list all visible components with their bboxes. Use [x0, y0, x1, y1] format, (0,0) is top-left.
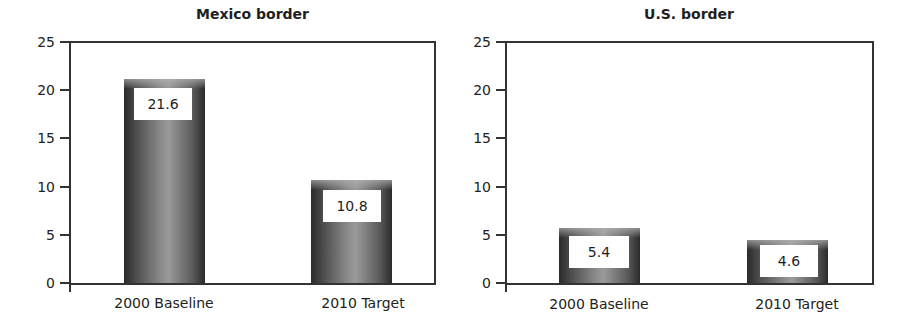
y-tick-label: 20	[25, 83, 55, 97]
bar-value-label: 5.4	[569, 236, 629, 268]
bar-value-label: 21.6	[134, 88, 192, 120]
y-tick-label: 0	[25, 276, 55, 290]
x-axis-origin-tick	[69, 284, 71, 292]
x-category-label: 2000 Baseline	[99, 295, 229, 311]
y-tick-label: 5	[25, 228, 55, 242]
y-tick-label: 5	[461, 228, 491, 242]
chart-us-border: U.S. border 0 5 10 15 20 25 5.4 4.6 2000…	[450, 0, 901, 335]
y-tick-label: 25	[461, 35, 491, 49]
y-tick	[496, 137, 506, 139]
y-tick	[496, 186, 506, 188]
x-category-label: 2010 Target	[298, 295, 428, 311]
y-tick	[60, 186, 70, 188]
y-tick-label: 25	[25, 35, 55, 49]
y-tick-label: 20	[461, 83, 491, 97]
y-tick-label: 15	[461, 131, 491, 145]
y-tick	[60, 41, 70, 43]
x-axis-origin-tick	[505, 284, 507, 292]
y-tick-label: 0	[461, 276, 491, 290]
y-tick-label: 10	[25, 180, 55, 194]
x-category-label: 2010 Target	[732, 296, 862, 312]
y-tick	[60, 234, 70, 236]
bar-value-label: 4.6	[760, 245, 818, 277]
chart-title: Mexico border	[70, 6, 435, 22]
y-tick-label: 15	[25, 131, 55, 145]
y-tick	[496, 234, 506, 236]
y-tick	[496, 41, 506, 43]
chart-title: U.S. border	[505, 6, 873, 22]
chart-mexico-border: Mexico border 0 5 10 15 20 25 21.6 10.8 …	[0, 0, 450, 335]
y-tick	[60, 137, 70, 139]
y-tick	[496, 89, 506, 91]
bar-value-label: 10.8	[323, 190, 381, 222]
y-tick-label: 10	[461, 180, 491, 194]
y-tick	[60, 89, 70, 91]
x-category-label: 2000 Baseline	[534, 296, 664, 312]
